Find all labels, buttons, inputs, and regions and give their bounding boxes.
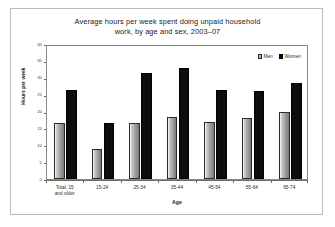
x-axis-tick-label-line-1: Total, 15 [56, 185, 74, 190]
legend-item-men: Men [258, 54, 273, 59]
x-axis-tick-mark [271, 180, 272, 183]
legend-swatch-men-icon [258, 54, 262, 58]
bar-men [92, 149, 103, 179]
x-axis-tick-mark [307, 180, 308, 183]
x-axis-ticks [46, 180, 308, 184]
x-axis-tick-label-line-2: and older [46, 191, 83, 197]
x-axis-tick-mark [196, 180, 197, 183]
x-axis-title: Age [46, 199, 308, 205]
x-axis-tick-label-line-1: 55-64 [246, 185, 258, 190]
plot-frame: Men Women [46, 45, 308, 180]
bar-men [129, 123, 140, 179]
bar-men [167, 117, 178, 179]
x-axis-tick-mark [233, 180, 234, 183]
y-axis-tick-label: 15 [37, 126, 42, 132]
y-axis-title: Hours per week [20, 56, 26, 116]
legend-swatch-women-icon [279, 54, 283, 58]
y-axis-tick-label: 5 [40, 160, 42, 166]
x-axis-tick-mark [158, 180, 159, 183]
chart-title: Average hours per week spent doing unpai… [25, 17, 310, 37]
x-axis-tick-label: 35-44 [158, 185, 195, 191]
chart-legend: Men Women [258, 54, 301, 59]
chart-figure: Average hours per week spent doing unpai… [10, 8, 323, 215]
y-axis-tick-label: 35 [37, 58, 42, 64]
y-axis-tick-label: 10 [37, 143, 42, 149]
x-axis-tick-label-line-1: 35-44 [171, 185, 183, 190]
bar-men [242, 118, 253, 179]
x-axis-tick-label: 25-34 [121, 185, 158, 191]
x-axis-tick-label-line-1: 65-74 [283, 185, 295, 190]
bar-women [66, 90, 77, 179]
bar-women [141, 73, 152, 179]
y-axis-tick-label: 0 [40, 177, 42, 183]
chart-title-line-2: work, by age and sex, 2003–07 [25, 27, 310, 37]
bar-women [104, 123, 115, 179]
x-axis-tick-mark [121, 180, 122, 183]
legend-item-women: Women [279, 54, 301, 59]
bar-men [204, 122, 215, 179]
x-axis-tick-label: 45-54 [196, 185, 233, 191]
legend-label-women: Women [285, 54, 301, 59]
x-axis-tick-label: 15-24 [83, 185, 120, 191]
bar-women [216, 90, 227, 179]
x-axis-tick-label: 65-74 [271, 185, 308, 191]
bar-women [291, 83, 302, 179]
x-axis-tick-label-line-1: 15-24 [96, 185, 108, 190]
y-axis-tick-label: 40 [37, 42, 42, 48]
y-axis-tick-label: 30 [37, 75, 42, 81]
x-axis-tick-label: 55-64 [233, 185, 270, 191]
x-axis-tick-label-line-1: 25-34 [133, 185, 145, 190]
x-axis-tick-mark [46, 180, 47, 183]
bar-men [279, 112, 290, 179]
x-axis-tick-label: Total, 15and older [46, 185, 83, 198]
x-axis-tick-mark [83, 180, 84, 183]
bar-women [179, 68, 190, 179]
bar-women [254, 91, 265, 179]
plot-area [47, 46, 307, 179]
x-axis-tick-label-line-1: 45-54 [208, 185, 220, 190]
bar-men [54, 123, 65, 179]
y-axis-tick-label: 20 [37, 109, 42, 115]
legend-label-men: Men [263, 54, 272, 59]
y-axis-ticks: 4035302520151050 [11, 45, 46, 180]
chart-title-line-1: Average hours per week spent doing unpai… [25, 17, 310, 27]
y-axis-tick-label: 25 [37, 92, 42, 98]
